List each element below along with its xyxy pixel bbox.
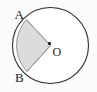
circle-sector-diagram: A B O xyxy=(0,0,97,92)
point-label-b: B xyxy=(15,70,24,85)
point-label-a: A xyxy=(15,7,25,22)
center-point-dot xyxy=(48,42,51,45)
point-label-o: O xyxy=(53,45,62,59)
geometry-figure-container: A B O xyxy=(0,0,97,92)
